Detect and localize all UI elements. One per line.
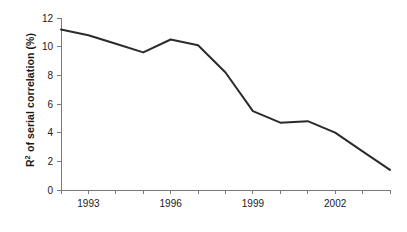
y-tick-label: 2 [47,156,53,167]
y-tick-label: 6 [47,99,53,110]
y-axis-tick-marks [57,18,61,190]
data-series-line [61,29,390,169]
y-tick-label: 12 [42,13,54,24]
x-axis-tick-marks [61,190,390,194]
x-tick-label: 1996 [160,198,183,209]
line-chart-plot: 024681012 1993199619992002 [0,0,407,232]
y-tick-label: 10 [42,41,54,52]
y-tick-label: 4 [47,127,53,138]
y-tick-label: 0 [47,185,53,196]
y-tick-label: 8 [47,70,53,81]
x-tick-label: 1999 [242,198,265,209]
x-axis-tick-labels: 1993199619992002 [77,198,346,209]
y-axis-tick-labels: 024681012 [42,13,54,196]
x-tick-label: 2002 [324,198,347,209]
chart-figure: R2 of serial correlation (%) 024681012 1… [0,0,407,232]
x-tick-label: 1993 [77,198,100,209]
